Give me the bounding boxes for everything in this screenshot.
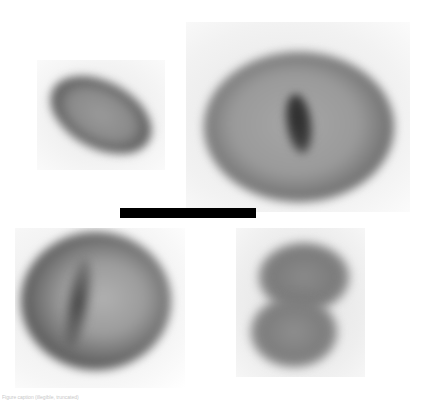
panel-bottom-left <box>15 228 185 388</box>
panel-bottom-right <box>236 228 365 377</box>
panel-top-left <box>37 60 165 170</box>
panel-top-right <box>186 22 410 212</box>
pollen-grain-round-folded <box>21 232 171 370</box>
figure-caption: Figure caption (illegible, truncated) <box>2 393 428 401</box>
scale-bar <box>120 208 256 218</box>
lower-lobe <box>250 296 338 368</box>
